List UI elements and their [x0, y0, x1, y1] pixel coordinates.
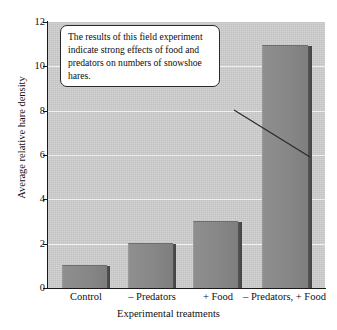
- callout-annotation: The results of this field experiment ind…: [60, 25, 220, 87]
- bar-minus-predators-plus-food[interactable]: [262, 45, 308, 288]
- x-axis-title: Experimental treatments: [0, 308, 337, 319]
- x-axis-line: [47, 288, 326, 289]
- y-axis-title: Average relative hare density: [16, 23, 27, 253]
- bar-plus-food[interactable]: [193, 221, 238, 289]
- bar-minus-predators[interactable]: [128, 243, 173, 288]
- y-tick-label-0: 0: [21, 283, 45, 294]
- x-tick-label-both: – Predators, + Food: [232, 292, 337, 303]
- bar-control[interactable]: [62, 265, 107, 288]
- figure-bar-chart: 0 2 4 6 8 10 12 Control – Predators + Fo…: [0, 0, 337, 330]
